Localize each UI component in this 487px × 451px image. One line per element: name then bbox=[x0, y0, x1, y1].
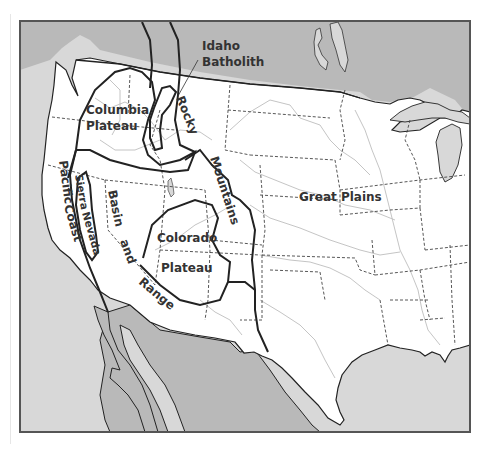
label-columbia-plateau-2: Plateau bbox=[86, 119, 138, 133]
label-colorado-plateau-1: Colorado bbox=[157, 231, 217, 245]
label-columbia-plateau-1: Columbia bbox=[86, 103, 149, 117]
label-colorado-plateau-2: Plateau bbox=[161, 261, 213, 275]
label-idaho-batholith-1: Idaho bbox=[202, 39, 240, 53]
label-idaho-batholith-2: Batholith bbox=[202, 55, 264, 69]
label-great-plains: Great Plains bbox=[299, 190, 382, 204]
physiographic-map: Idaho Batholith Columbia Plateau Rocky M… bbox=[0, 0, 487, 451]
